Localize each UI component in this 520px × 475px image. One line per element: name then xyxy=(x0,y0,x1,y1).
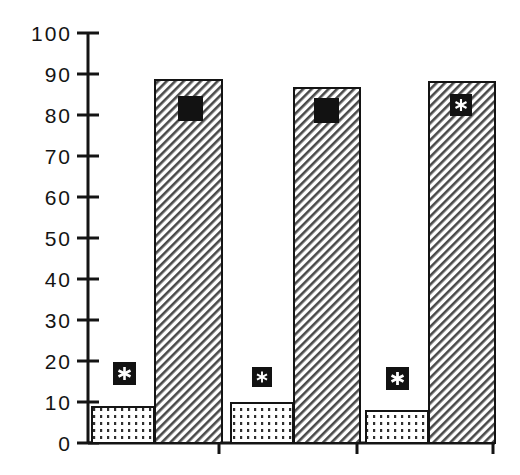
significance-marker-asterisk-icon xyxy=(252,367,272,387)
y-tick-label: 50 xyxy=(45,227,72,250)
significance-marker-square-icon xyxy=(314,98,339,123)
significance-marker-square-icon xyxy=(178,96,203,121)
y-tick-label: 10 xyxy=(45,391,72,414)
y-tick-label: 30 xyxy=(45,309,72,332)
y-tick-label: 90 xyxy=(45,63,72,86)
bar-chart: 100 90 80 70 60 50 40 30 20 10 0 xyxy=(0,0,520,475)
y-tick-label: 70 xyxy=(45,145,72,168)
bar-group-1 xyxy=(92,80,222,443)
bar-group-3 xyxy=(366,82,495,443)
y-tick-label: 100 xyxy=(31,22,72,45)
y-tick-label: 20 xyxy=(45,350,72,373)
significance-marker-asterisk-icon xyxy=(386,367,409,390)
chart-canvas: 100 90 80 70 60 50 40 30 20 10 0 xyxy=(0,0,520,475)
bar-dotted-3 xyxy=(366,411,428,443)
bar-group-2 xyxy=(231,88,360,443)
bar-dotted-1 xyxy=(92,407,154,443)
y-axis: 100 90 80 70 60 50 40 30 20 10 0 xyxy=(31,22,99,455)
y-axis-tick-labels: 100 90 80 70 60 50 40 30 20 10 0 xyxy=(31,22,72,455)
bar-hatched-2 xyxy=(294,88,360,443)
y-tick-label: 40 xyxy=(45,268,72,291)
significance-marker-asterisk-icon xyxy=(450,94,472,116)
bar-dotted-2 xyxy=(231,403,293,443)
y-tick-label: 60 xyxy=(45,186,72,209)
y-tick-label: 80 xyxy=(45,104,72,127)
bar-hatched-1 xyxy=(155,80,222,443)
y-tick-label: 0 xyxy=(58,432,72,455)
significance-marker-asterisk-icon xyxy=(113,362,136,385)
bar-hatched-3 xyxy=(429,82,495,443)
